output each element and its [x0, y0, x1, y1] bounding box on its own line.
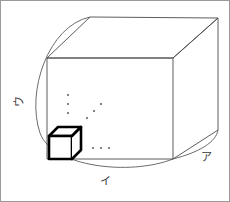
- figure-canvas: ウ イ ア: [0, 0, 230, 202]
- image-frame: [1, 1, 230, 202]
- dots-horizontal-ellipsis: [92, 145, 112, 151]
- unit-cube: [49, 127, 81, 159]
- unit-cube-front-face: [49, 136, 72, 159]
- dimension-label-width: イ: [100, 176, 111, 187]
- geometry-figure: [0, 0, 230, 202]
- dimension-label-depth: ア: [201, 152, 212, 163]
- dots-diagonal-ellipsis: [86, 102, 104, 120]
- dimension-label-height: ウ: [14, 96, 25, 107]
- dots-vertical-ellipsis: [65, 94, 71, 116]
